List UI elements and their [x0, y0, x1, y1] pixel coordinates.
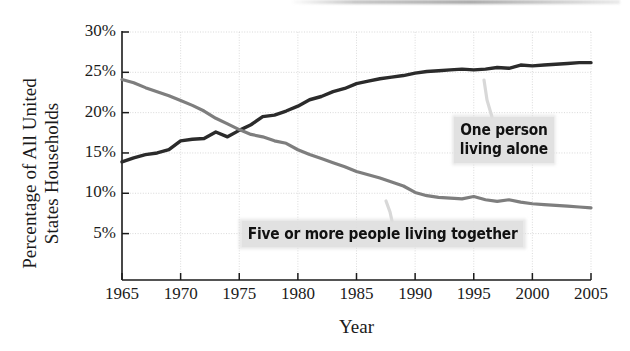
chart-figure: Percentage of All United States Househol…: [0, 0, 630, 351]
annotation-one-person-living-alone: One person living alone: [453, 117, 554, 163]
annotation-one-line2: living alone: [460, 140, 548, 158]
annotation-one-line1: One person: [460, 121, 547, 139]
plot-svg: [0, 0, 630, 351]
annotation-five-or-more-people: Five or more people living together: [241, 221, 524, 247]
